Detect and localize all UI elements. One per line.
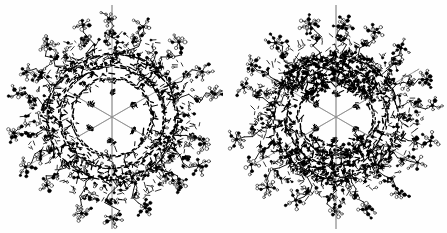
molecule-diagram-right <box>224 0 447 233</box>
wireframe-group-left <box>7 11 223 228</box>
panel-left-molecule <box>0 0 223 233</box>
axis-tail-right <box>414 69 420 72</box>
molecule-diagram-left <box>0 0 223 233</box>
panel-right-molecule <box>224 0 447 233</box>
figure-canvas <box>0 0 447 233</box>
